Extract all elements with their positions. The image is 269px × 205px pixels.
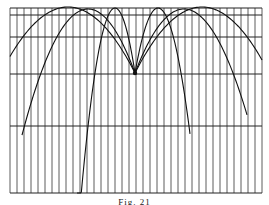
trajectory-diagram bbox=[0, 0, 269, 205]
trajectory-outer-left bbox=[10, 7, 135, 73]
trajectory-mid-left bbox=[22, 9, 135, 135]
launch-point bbox=[133, 71, 137, 75]
vertical-grid-lines bbox=[10, 8, 262, 193]
trajectory-mid-right bbox=[135, 9, 247, 115]
trajectory-inner-left bbox=[77, 8, 135, 193]
figure-caption: Fig. 21 bbox=[0, 197, 269, 205]
trajectory-outer-right bbox=[135, 7, 262, 73]
